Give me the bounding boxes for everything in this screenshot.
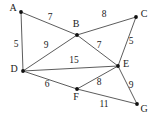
edge-weight-d-f: 6: [45, 79, 50, 89]
edge-weight-b-d: 9: [44, 40, 49, 50]
edge-weight-e-g: 9: [129, 80, 134, 90]
graph-node-a: [19, 10, 23, 14]
graph-edge-a-d: [21, 12, 23, 71]
graph-canvas: 7589751568911 ABCDEFG: [0, 0, 154, 122]
edge-weight-b-e: 7: [97, 40, 102, 50]
node-label-b: B: [73, 18, 80, 29]
node-label-e: E: [123, 58, 129, 69]
graph-node-e: [116, 64, 120, 68]
node-label-c: C: [141, 8, 148, 19]
weighted-graph-figure: 7589751568911 ABCDEFG: [0, 0, 154, 122]
node-label-f: F: [73, 91, 79, 102]
node-label-a: A: [9, 2, 17, 13]
graph-node-d: [21, 69, 25, 73]
graph-edge-e-g: [118, 66, 137, 104]
graph-edge-d-e: [23, 66, 118, 71]
graph-edge-b-d: [23, 35, 77, 71]
graph-edge-b-c: [77, 17, 136, 35]
node-label-d: D: [10, 63, 17, 74]
edge-weight-a-d: 5: [14, 39, 19, 49]
edge-weight-a-b: 7: [48, 12, 53, 22]
graph-node-b: [75, 33, 79, 37]
edge-weight-c-e: 5: [129, 36, 134, 46]
graph-edge-d-f: [23, 71, 77, 89]
graph-node-g: [135, 102, 139, 106]
graph-node-c: [134, 15, 138, 19]
node-label-g: G: [140, 103, 147, 114]
edge-weight-d-e: 15: [69, 55, 79, 65]
edge-weight-b-c: 8: [102, 9, 107, 19]
edge-weight-f-g: 11: [99, 99, 108, 109]
edge-weight-e-f: 8: [97, 77, 102, 87]
